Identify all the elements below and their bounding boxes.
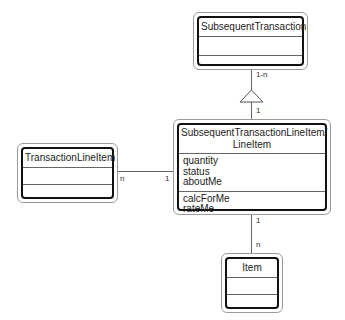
class-name: Item [227,259,277,278]
attribute-about-me: aboutMe [183,177,321,188]
attributes-section: quantity status aboutMe [179,154,325,192]
multiplicity-label: 1 [165,174,169,183]
multiplicity-label: 1 [256,106,260,115]
uml-diagram-canvas: SubsequentTransaction 1-n 1 SubsequentTr… [0,0,345,320]
class-item[interactable]: Item [221,253,283,313]
attributes-section [199,37,302,56]
class-subsequent-transaction-line-item[interactable]: SubsequentTransactionLineItem/ LineItem … [173,119,331,215]
class-transaction-line-item[interactable]: TransactionLineItem [17,143,118,203]
attribute-quantity: quantity [183,156,321,167]
operation-rate-me: rateMe [183,204,321,215]
attributes-section [23,168,112,185]
attributes-section [227,278,277,295]
multiplicity-label: 1 [256,216,260,225]
operations-section [227,295,277,307]
multiplicity-label: n [120,174,124,183]
operations-section [23,185,112,197]
class-name-line: SubsequentTransactionLineItem/ [181,127,323,139]
operations-section: calcForMe rateMe [179,192,325,217]
multiplicity-label: n [256,240,260,249]
multiplicity-label: 1-n [256,70,268,79]
class-name-line: LineItem [181,139,323,151]
class-name: SubsequentTransactionLineItem/ LineItem [179,125,325,154]
class-name: TransactionLineItem [23,149,112,168]
triangle-icon [240,90,263,102]
operations-section [199,56,302,64]
class-subsequent-transaction[interactable]: SubsequentTransaction [193,12,308,70]
class-name: SubsequentTransaction [199,18,302,37]
